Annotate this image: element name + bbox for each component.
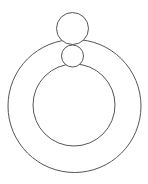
circles-diagram [0, 0, 148, 184]
top-small-circle [62, 45, 84, 67]
top-large-circle [57, 13, 89, 45]
